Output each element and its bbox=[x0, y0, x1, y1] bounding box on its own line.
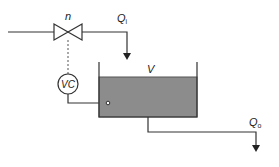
tank-fluid bbox=[99, 77, 197, 117]
control-valve-icon bbox=[54, 24, 82, 40]
valve-label: n bbox=[65, 10, 71, 22]
level-sensor-icon bbox=[106, 101, 110, 105]
volume-label: V bbox=[147, 63, 156, 75]
tank-level-control-diagram: n Qi VC V Qo bbox=[0, 0, 279, 167]
controller-label: VC bbox=[61, 79, 76, 90]
inflow-pipe bbox=[82, 32, 127, 54]
inflow-label: Qi bbox=[117, 12, 128, 25]
inflow-arrow-icon bbox=[123, 53, 131, 60]
outflow-arrow-icon bbox=[252, 145, 260, 152]
outflow-label: Qo bbox=[249, 116, 262, 129]
outflow-pipe bbox=[148, 117, 256, 146]
